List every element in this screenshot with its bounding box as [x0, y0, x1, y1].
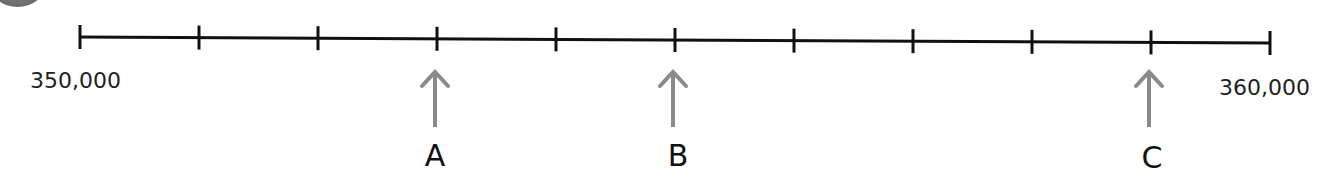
start-label: 350,000 — [30, 68, 121, 93]
arrow-up-icon — [660, 71, 686, 127]
arrow-up-icon — [422, 71, 448, 127]
arrow-up-icon — [1136, 71, 1162, 127]
marker-label-a: A — [425, 138, 446, 173]
tick-marks — [80, 25, 1270, 55]
number-line-diagram: 350,000 360,000 A B C — [0, 0, 1341, 183]
marker-arrows — [422, 71, 1162, 127]
marker-label-b: B — [668, 138, 689, 173]
end-label: 360,000 — [1219, 75, 1310, 100]
marker-label-c: C — [1142, 140, 1163, 175]
